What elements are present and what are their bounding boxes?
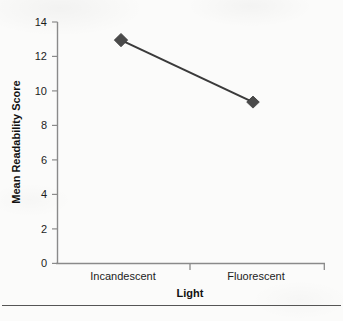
y-axis-ticks [52, 22, 58, 263]
y-axis-title: Mean Readability Score [10, 80, 22, 204]
line-chart: 14 12 10 8 6 4 2 0 Incandescent Fluoresc… [0, 0, 343, 321]
y-tick-label-0: 0 [41, 257, 47, 269]
y-tick-label-8: 8 [41, 119, 47, 131]
y-tick-label-12: 12 [35, 50, 47, 62]
data-point-marker-incandescent[interactable] [114, 33, 127, 46]
x-axis-title: Light [177, 287, 204, 299]
y-tick-label-2: 2 [41, 223, 47, 235]
y-tick-label-14: 14 [35, 16, 47, 28]
page-canvas: 14 12 10 8 6 4 2 0 Incandescent Fluoresc… [0, 0, 343, 321]
y-tick-label-4: 4 [41, 188, 47, 200]
chart-svg: 14 12 10 8 6 4 2 0 Incandescent Fluoresc… [0, 0, 343, 321]
data-point-marker-fluorescent[interactable] [247, 96, 260, 108]
x-category-label-fluorescent: Fluorescent [227, 270, 284, 282]
y-tick-label-10: 10 [35, 85, 47, 97]
y-tick-label-6: 6 [41, 154, 47, 166]
data-series-line [121, 40, 253, 102]
x-category-label-incandescent: Incandescent [90, 270, 155, 282]
